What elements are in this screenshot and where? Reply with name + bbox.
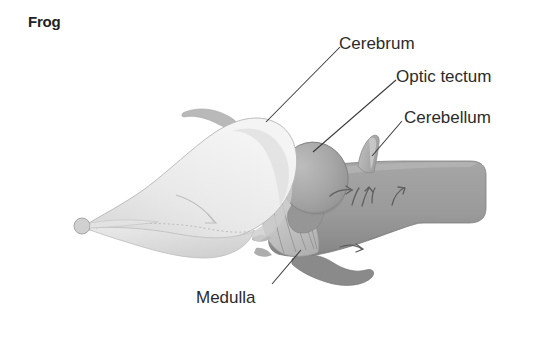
frog-brain-figure: Frog (0, 0, 537, 337)
label-cerebrum: Cerebrum (339, 35, 415, 52)
brain-illustration (0, 0, 537, 337)
nerve-stub-lower (254, 248, 272, 257)
olfactory-bulb-shape (74, 218, 90, 234)
label-optic-tectum: Optic tectum (396, 68, 491, 85)
label-cerebellum: Cerebellum (404, 109, 491, 126)
label-medulla: Medulla (196, 289, 256, 306)
leader-line-cerebrum (266, 47, 340, 122)
pituitary-lobe-shape (292, 255, 374, 286)
cerebrum-group (74, 109, 297, 258)
pituitary-lobe-group (292, 255, 374, 286)
leader-line-optic (313, 80, 396, 152)
